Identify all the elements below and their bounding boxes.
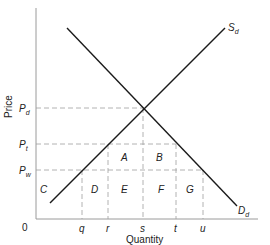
- quantity-label-r: r: [106, 223, 110, 234]
- supply-curve: [50, 28, 225, 203]
- demand-label: Dd: [238, 205, 250, 218]
- x-axis-title: Quantity: [126, 234, 163, 245]
- quantity-label-u: u: [200, 223, 206, 234]
- supply-label: Sd: [228, 22, 240, 35]
- area-label-a: A: [120, 152, 128, 163]
- y-axis-title: Price: [3, 95, 14, 118]
- supply-demand-diagram: Sd Dd Pd Pt Pw A B C D E F G 0 q r s t u…: [0, 0, 270, 245]
- area-label-b: B: [156, 152, 163, 163]
- quantity-label-t: t: [174, 223, 178, 234]
- demand-curve: [67, 28, 237, 206]
- quantity-label-q: q: [79, 223, 85, 234]
- price-label-pw: Pw: [19, 165, 32, 178]
- price-label-pt: Pt: [19, 139, 29, 152]
- area-label-g: G: [186, 184, 194, 195]
- price-label-pd: Pd: [19, 103, 31, 116]
- quantity-label-s: s: [140, 223, 145, 234]
- area-label-d: D: [91, 184, 98, 195]
- area-label-e: E: [121, 184, 128, 195]
- area-label-f: F: [158, 184, 165, 195]
- origin-label: 0: [22, 222, 28, 233]
- area-label-c: C: [40, 184, 48, 195]
